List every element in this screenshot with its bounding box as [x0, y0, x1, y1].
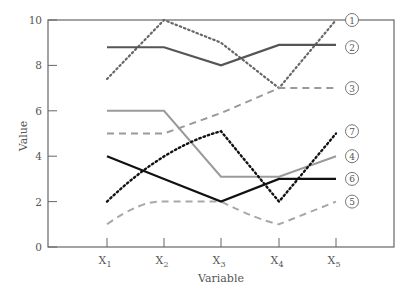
y-tick-label: 6: [35, 105, 42, 117]
series-label-3: 3: [346, 82, 359, 95]
x-tick-label: X2: [156, 254, 169, 269]
series-lines: [107, 20, 336, 224]
x-tick-label: X3: [213, 254, 226, 269]
series-line-5: [107, 201, 336, 224]
plot-frame: [48, 20, 394, 247]
series-label-5: 5: [346, 195, 359, 208]
series-line-4: [107, 111, 336, 177]
label-number: 6: [349, 174, 355, 184]
y-tick-label: 2: [35, 196, 42, 208]
y-tick-label: 10: [29, 14, 42, 26]
series-line-7: [107, 131, 336, 201]
y-axis-title: Value: [17, 121, 30, 153]
series-line-6: [107, 156, 336, 201]
label-number: 7: [349, 127, 355, 137]
x-tick-label: X5: [328, 254, 341, 269]
series-label-6: 6: [346, 172, 359, 185]
label-number: 4: [349, 152, 355, 162]
y-tick-label: 8: [35, 59, 42, 71]
label-number: 1: [349, 16, 355, 26]
series-label-2: 2: [346, 41, 359, 54]
x-axis-title: Variable: [197, 272, 244, 285]
axes: 0246810X1X2X3X4X5: [29, 14, 394, 269]
x-tick-label: X1: [99, 254, 112, 269]
y-tick-label: 4: [35, 150, 42, 162]
label-number: 2: [349, 43, 355, 53]
series-label-1: 1: [346, 14, 359, 27]
y-tick-label: 0: [35, 241, 42, 253]
series-label-7: 7: [346, 125, 359, 138]
series-labels: 1234567: [346, 14, 359, 209]
series-line-1: [107, 20, 336, 88]
line-chart: 0246810X1X2X3X4X5 1234567 Variable Value: [0, 0, 409, 291]
label-number: 5: [349, 197, 355, 207]
series-label-4: 4: [346, 150, 359, 163]
label-number: 3: [349, 84, 355, 94]
x-tick-label: X4: [271, 254, 284, 269]
